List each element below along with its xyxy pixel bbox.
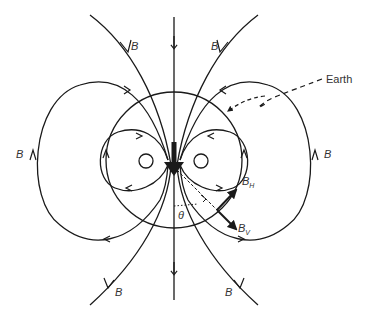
field-line-mid-left — [37, 82, 168, 240]
label-b-right: B — [324, 148, 331, 160]
label-bv: BV — [238, 222, 251, 236]
field-line-top-right — [177, 15, 258, 305]
label-b-top-right: B — [211, 40, 218, 52]
field-line-top-left — [90, 15, 171, 305]
pole-circle-right — [194, 154, 208, 168]
bar-magnet — [172, 142, 177, 164]
label-earth: Earth — [326, 73, 352, 85]
label-theta: θ — [178, 209, 184, 221]
inner-loop-left — [100, 130, 168, 191]
label-b-left: B — [16, 148, 23, 160]
magnetic-field-diagram: B B B B B B Earth BH BV θ — [0, 0, 365, 317]
label-b-bottom-left: B — [115, 286, 122, 298]
field-line-mid-right — [180, 82, 311, 240]
label-b-top-left: B — [131, 40, 138, 52]
label-bh: BH — [242, 175, 255, 189]
label-b-bottom-right: B — [225, 286, 232, 298]
pole-circle-left — [139, 154, 153, 168]
